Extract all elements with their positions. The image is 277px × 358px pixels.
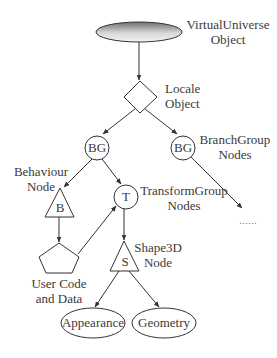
transform-text: T <box>122 189 130 204</box>
continuation-ellipsis: …… <box>239 216 257 226</box>
transformgroup-label2: Nodes <box>167 198 200 213</box>
shape3d-node: S Shape3D Node <box>110 240 182 271</box>
locale-diamond <box>124 81 157 113</box>
user-code-node: User Code and Data <box>31 243 86 306</box>
behaviour-label2: Node <box>27 179 55 194</box>
edge-bg-left-behaviour <box>64 159 92 187</box>
appearance-text: Appearance <box>62 315 124 330</box>
locale-node: Locale Object <box>124 81 201 113</box>
branchgroup-right-node: BG BranchGroup Nodes <box>171 132 270 162</box>
branchgroup-label: BranchGroup <box>200 132 271 147</box>
transformgroup-node: T TransformGroup Nodes <box>114 183 228 213</box>
edge-shape3d-geometry <box>129 271 159 307</box>
edge-locale-bg-left <box>103 105 140 134</box>
bg-left-text: BG <box>88 140 106 155</box>
shape3d-label2: Node <box>144 255 172 270</box>
behaviour-label: Behaviour <box>14 164 69 179</box>
shape3d-label: Shape3D <box>134 240 182 255</box>
scene-graph-diagram: VirtualUniverse Object Locale Object BG … <box>0 0 277 358</box>
edge-shape3d-appearance <box>95 271 119 307</box>
bg-right-text: BG <box>174 140 192 155</box>
branchgroup-label2: Nodes <box>218 147 251 162</box>
virtual-universe-label: VirtualUniverse <box>187 17 270 32</box>
transformgroup-label: TransformGroup <box>140 183 228 198</box>
locale-label2: Object <box>165 96 200 111</box>
branchgroup-left-node: BG <box>85 136 109 160</box>
behaviour-node: B Behaviour Node <box>14 164 74 217</box>
appearance-node: Appearance <box>61 308 125 338</box>
geometry-node: Geometry <box>132 308 196 338</box>
user-code-pentagon <box>39 243 79 273</box>
locale-label: Locale <box>165 81 201 96</box>
edge-usercode-transform <box>78 206 116 254</box>
geometry-text: Geometry <box>138 315 190 330</box>
edge-bg-left-transform <box>102 159 121 184</box>
virtual-universe-node: VirtualUniverse Object <box>96 17 270 47</box>
virtual-universe-ellipse <box>96 22 182 42</box>
user-code-label2: and Data <box>36 291 83 306</box>
behaviour-text: B <box>56 200 65 215</box>
user-code-label: User Code <box>31 276 86 291</box>
virtual-universe-label2: Object <box>211 32 246 47</box>
shape3d-text: S <box>121 254 128 269</box>
